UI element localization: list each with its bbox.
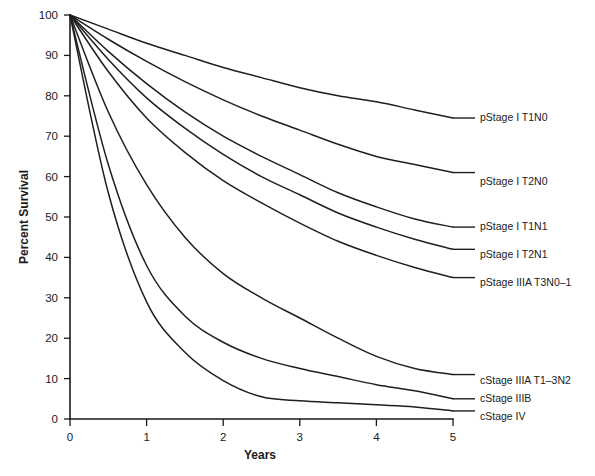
survival-curve — [70, 15, 453, 399]
series-label-cstage-iiib: cStage IIIB — [480, 392, 531, 404]
y-tick-label-group: 100 90 80 70 60 50 40 30 20 10 0 — [39, 9, 58, 425]
series-label-pstage-i-t2n0: pStage I T2N0 — [480, 175, 548, 187]
chart-canvas: 100 90 80 70 60 50 40 30 20 10 0 0 1 2 3 — [0, 0, 595, 476]
y-tick-label-40: 40 — [45, 251, 58, 263]
series-label-pstage-i-t2n1: pStage I T2N1 — [480, 248, 548, 260]
x-tick-label-1: 1 — [143, 431, 149, 443]
survival-curve — [70, 15, 453, 118]
x-tick-label-5: 5 — [450, 431, 456, 443]
curve-layer — [70, 15, 453, 411]
survival-curve — [70, 15, 453, 173]
series-label-pstage-iiia-t3n01: pStage IIIA T3N0–1 — [480, 276, 572, 288]
y-tick-label-50: 50 — [45, 211, 58, 223]
x-tick-label-group: 0 1 2 3 4 5 — [67, 431, 456, 443]
x-tick-label-4: 4 — [373, 431, 380, 443]
survival-curve-chart: 100 90 80 70 60 50 40 30 20 10 0 0 1 2 3 — [0, 0, 595, 476]
y-tick-label-90: 90 — [45, 49, 58, 61]
y-tick-label-30: 30 — [45, 292, 58, 304]
leader-line-layer — [453, 118, 475, 411]
x-tick-label-3: 3 — [297, 431, 303, 443]
survival-curve — [70, 15, 453, 227]
y-axis-title: Percent Survival — [17, 170, 31, 264]
clipped-caption-sliver — [8, 469, 588, 476]
y-tick-label-10: 10 — [45, 373, 58, 385]
x-tick-label-0: 0 — [67, 431, 73, 443]
series-label-cstage-iiia-t13n2: cStage IIIA T1–3N2 — [480, 374, 571, 386]
x-axis-title: Years — [244, 448, 276, 462]
series-label-group: pStage I T1N0 pStage I T2N0 pStage I T1N… — [480, 111, 572, 422]
series-label-pstage-i-t1n0: pStage I T1N0 — [480, 111, 548, 123]
y-tick-label-0: 0 — [52, 413, 58, 425]
y-tick-label-100: 100 — [39, 9, 58, 21]
x-tick-label-2: 2 — [220, 431, 226, 443]
y-tick-group — [64, 15, 70, 419]
y-tick-label-60: 60 — [45, 171, 58, 183]
series-label-pstage-i-t1n1: pStage I T1N1 — [480, 220, 548, 232]
x-tick-group — [70, 419, 453, 426]
y-tick-label-80: 80 — [45, 90, 58, 102]
y-tick-label-20: 20 — [45, 332, 58, 344]
y-tick-label-70: 70 — [45, 130, 58, 142]
series-label-cstage-iv: cStage IV — [480, 410, 526, 422]
survival-curve — [70, 15, 453, 278]
